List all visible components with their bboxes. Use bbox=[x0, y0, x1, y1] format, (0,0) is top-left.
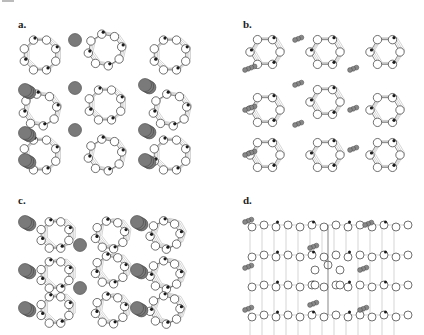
oxygen-atom bbox=[117, 95, 125, 103]
oxygen-atom bbox=[404, 221, 412, 229]
oxygen-atom bbox=[268, 118, 276, 126]
cation-atom bbox=[131, 302, 144, 315]
cation-atom bbox=[19, 154, 32, 167]
oxygen-atom bbox=[172, 280, 180, 288]
oxygen-atom bbox=[373, 163, 381, 171]
oxygen-atom bbox=[170, 220, 178, 228]
oxygen-atom bbox=[159, 36, 167, 44]
oxygen-atom bbox=[45, 284, 53, 292]
oxygen-atom bbox=[272, 253, 280, 261]
oxygen-atom bbox=[94, 86, 102, 94]
oxygen-atom bbox=[368, 313, 376, 321]
panel-label-c: c. bbox=[18, 194, 26, 206]
tetrahedral-atom bbox=[272, 139, 275, 142]
oxygen-atom bbox=[114, 294, 122, 302]
oxygen-atom bbox=[151, 282, 159, 290]
oxygen-atom bbox=[332, 251, 340, 259]
tetrahedral-atom bbox=[46, 66, 49, 69]
oxygen-atom bbox=[119, 273, 127, 281]
oxygen-atom bbox=[98, 243, 106, 251]
tetrahedral-atom bbox=[276, 251, 279, 254]
oxygen-atom bbox=[320, 223, 328, 231]
tetrahedral-atom bbox=[166, 246, 169, 249]
oxygen-atom bbox=[248, 283, 256, 291]
oxygen-atom bbox=[114, 219, 122, 227]
oxygen-atom bbox=[388, 93, 396, 101]
oxygen-atom bbox=[392, 313, 400, 321]
tetrahedral-atom bbox=[98, 86, 101, 89]
oxygen-atom bbox=[52, 57, 60, 65]
oxygen-atom bbox=[37, 236, 45, 244]
oxygen-atom bbox=[91, 59, 99, 67]
cation-atom bbox=[243, 153, 248, 158]
tetrahedral-atom bbox=[41, 237, 44, 240]
tetrahedral-atom bbox=[49, 218, 52, 221]
tetrahedral-atom bbox=[186, 45, 189, 48]
oxygen-atom bbox=[93, 298, 101, 306]
oxygen-atom bbox=[284, 221, 292, 229]
tetrahedral-atom bbox=[276, 221, 279, 224]
oxygen-atom bbox=[57, 293, 65, 301]
tetrahedral-atom bbox=[114, 245, 117, 248]
oxygen-atom bbox=[149, 297, 157, 305]
oxygen-atom bbox=[320, 283, 328, 291]
oxygen-atom bbox=[120, 262, 128, 270]
oxygen-atom bbox=[159, 292, 167, 300]
tetrahedral-atom bbox=[114, 280, 117, 283]
oxygen-atom bbox=[150, 57, 158, 65]
tetrahedral-atom bbox=[392, 164, 395, 167]
oxygen-atom bbox=[87, 142, 95, 150]
tetrahedral-atom bbox=[250, 48, 253, 51]
oxygen-atom bbox=[109, 245, 117, 253]
tetrahedral-atom bbox=[154, 58, 157, 61]
tetrahedral-atom bbox=[348, 311, 351, 314]
oxygen-atom bbox=[102, 292, 110, 300]
oxygen-atom bbox=[276, 151, 284, 159]
oxygen-atom bbox=[162, 320, 170, 328]
tetrahedral-atom bbox=[272, 164, 275, 167]
tetrahedral-atom bbox=[164, 292, 167, 295]
oxygen-atom bbox=[172, 136, 180, 144]
oxygen-atom bbox=[45, 293, 53, 301]
crystal-structure-d bbox=[240, 210, 415, 330]
oxygen-atom bbox=[344, 253, 352, 261]
cation-atom bbox=[363, 223, 368, 228]
oxygen-atom bbox=[104, 167, 112, 175]
oxygen-atom bbox=[117, 148, 125, 156]
oxygen-atom bbox=[52, 157, 60, 165]
oxygen-atom bbox=[172, 66, 180, 74]
oxygen-atom bbox=[248, 313, 256, 321]
tetrahedral-atom bbox=[310, 98, 313, 101]
tetrahedral-atom bbox=[57, 103, 60, 106]
cation-atom bbox=[293, 38, 298, 43]
oxygen-atom bbox=[306, 48, 314, 56]
tetrahedral-atom bbox=[24, 58, 27, 61]
tetrahedral-atom bbox=[370, 151, 373, 154]
tetrahedral-atom bbox=[166, 321, 169, 324]
oxygen-atom bbox=[110, 32, 118, 40]
oxygen-atom bbox=[120, 227, 128, 235]
cation-atom bbox=[69, 34, 82, 47]
tetrahedral-atom bbox=[122, 43, 125, 46]
oxygen-atom bbox=[388, 118, 396, 126]
cation-atom bbox=[131, 216, 144, 229]
oxygen-atom bbox=[169, 122, 177, 130]
oxygen-atom bbox=[336, 98, 344, 106]
oxygen-atom bbox=[260, 311, 268, 319]
oxygen-atom bbox=[45, 244, 53, 252]
tetrahedral-atom bbox=[124, 228, 127, 231]
oxygen-atom bbox=[328, 138, 336, 146]
oxygen-atom bbox=[146, 232, 154, 240]
cation-atom bbox=[19, 127, 32, 140]
tetrahedral-atom bbox=[163, 36, 166, 39]
oxygen-atom bbox=[176, 269, 184, 277]
tetrahedral-atom bbox=[153, 109, 156, 112]
oxygen-atom bbox=[39, 122, 47, 130]
oxygen-atom bbox=[253, 163, 261, 171]
tetrahedral-atom bbox=[61, 285, 64, 288]
oxygen-atom bbox=[119, 238, 127, 246]
oxygen-atom bbox=[313, 60, 321, 68]
oxygen-atom bbox=[246, 48, 254, 56]
oxygen-atom bbox=[91, 234, 99, 242]
cation-atom bbox=[69, 82, 82, 95]
